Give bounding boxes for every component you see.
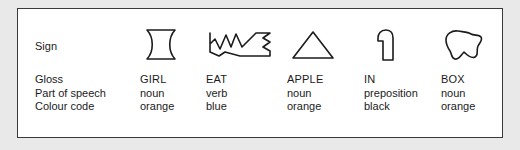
colour-code-value: blue bbox=[206, 100, 286, 114]
sign-cell-apple bbox=[287, 25, 363, 67]
sign-text-girl: GIRL noun orange bbox=[140, 73, 205, 114]
sign-text-eat: EAT verb blue bbox=[206, 73, 286, 114]
sign-column-eat: EAT verb blue bbox=[206, 9, 286, 137]
rounded-post-sign-icon bbox=[377, 29, 395, 61]
row-label-part-of-speech: Part of speech bbox=[35, 87, 139, 101]
sign-text-apple: APPLE noun orange bbox=[287, 73, 363, 114]
row-label-colour-code: Colour code bbox=[35, 100, 139, 114]
part-of-speech-value: noun bbox=[140, 87, 205, 101]
gloss-value: APPLE bbox=[287, 73, 363, 87]
row-label-column: Sign Gloss Part of speech Colour code bbox=[35, 9, 139, 137]
part-of-speech-value: noun bbox=[287, 87, 363, 101]
row-label-sign: Sign bbox=[35, 40, 57, 52]
figure-frame: Sign Gloss Part of speech Colour code GI… bbox=[17, 8, 503, 138]
gloss-value: IN bbox=[364, 73, 440, 87]
hourglass-sign-icon bbox=[144, 29, 178, 60]
colour-code-value: orange bbox=[287, 100, 363, 114]
row-label-stack: Gloss Part of speech Colour code bbox=[35, 73, 139, 114]
colour-code-value: orange bbox=[441, 100, 501, 114]
sign-text-in: IN preposition black bbox=[364, 73, 440, 114]
colour-code-value: orange bbox=[140, 100, 205, 114]
triangle-sign-icon bbox=[292, 31, 334, 59]
sign-text-box: BOX noun orange bbox=[441, 73, 501, 114]
part-of-speech-value: preposition bbox=[364, 87, 440, 101]
sign-column-girl: GIRL noun orange bbox=[140, 9, 205, 137]
gloss-value: GIRL bbox=[140, 73, 205, 87]
sign-column-box: BOX noun orange bbox=[441, 9, 501, 137]
gloss-value: BOX bbox=[441, 73, 501, 87]
sign-cell-eat bbox=[206, 25, 286, 67]
zigzag-sign-icon bbox=[209, 31, 271, 58]
sign-cell-box bbox=[441, 25, 501, 67]
sign-column-in: IN preposition black bbox=[364, 9, 440, 137]
sign-cell-in bbox=[364, 25, 440, 67]
part-of-speech-value: noun bbox=[441, 87, 501, 101]
figure-body: Sign Gloss Part of speech Colour code GI… bbox=[18, 9, 502, 137]
row-label-gloss: Gloss bbox=[35, 73, 139, 87]
gloss-value: EAT bbox=[206, 73, 286, 87]
sign-column-apple: APPLE noun orange bbox=[287, 9, 363, 137]
sign-cell-girl bbox=[140, 25, 205, 67]
part-of-speech-value: verb bbox=[206, 87, 286, 101]
blob-sign-icon bbox=[445, 29, 483, 60]
colour-code-value: black bbox=[364, 100, 440, 114]
